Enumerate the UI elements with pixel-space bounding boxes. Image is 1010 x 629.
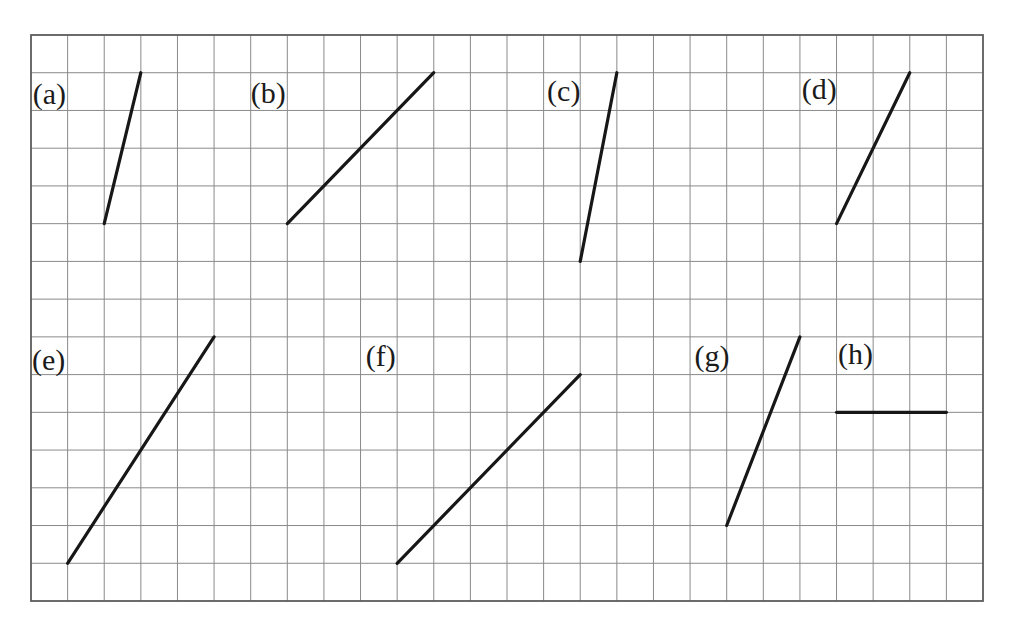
grid-figure: (a)(b)(c)(d)(e)(f)(g)(h) bbox=[0, 0, 1010, 629]
segment-label-a: (a) bbox=[33, 77, 66, 111]
worksheet-figure-page: (a)(b)(c)(d)(e)(f)(g)(h) bbox=[0, 0, 1010, 629]
segment-label-b: (b) bbox=[251, 76, 286, 110]
segment-label-d: (d) bbox=[802, 72, 837, 106]
segment-label-e: (e) bbox=[32, 343, 65, 377]
segment-label-f: (f) bbox=[366, 339, 396, 373]
figure-background bbox=[0, 0, 1010, 629]
segment-label-h: (h) bbox=[838, 337, 873, 371]
segment-label-g: (g) bbox=[695, 339, 730, 373]
segment-label-c: (c) bbox=[547, 74, 580, 108]
